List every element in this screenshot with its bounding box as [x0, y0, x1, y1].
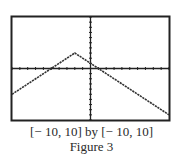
figure-caption: Figure 3: [0, 140, 183, 154]
window-caption: [− 10, 10] by [− 10, 10]: [0, 125, 183, 139]
calculator-graph: [0, 0, 183, 124]
